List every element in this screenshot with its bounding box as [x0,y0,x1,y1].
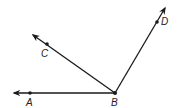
point-d [155,20,159,24]
point-a [28,91,32,95]
label-a: A [25,97,33,108]
angle-diagram: ACDB [0,0,180,108]
label-d: D [161,16,168,27]
label-b: B [111,97,118,108]
label-c: C [41,48,49,59]
vertex-b [113,91,117,95]
point-c [45,42,49,46]
